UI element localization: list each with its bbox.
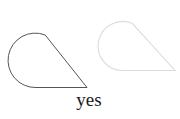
dark-teardrop-shape bbox=[8, 33, 87, 87]
answer-label: yes bbox=[74, 89, 104, 111]
faded-teardrop-shape bbox=[98, 22, 175, 71]
stimulus-canvas: yes bbox=[0, 0, 180, 119]
